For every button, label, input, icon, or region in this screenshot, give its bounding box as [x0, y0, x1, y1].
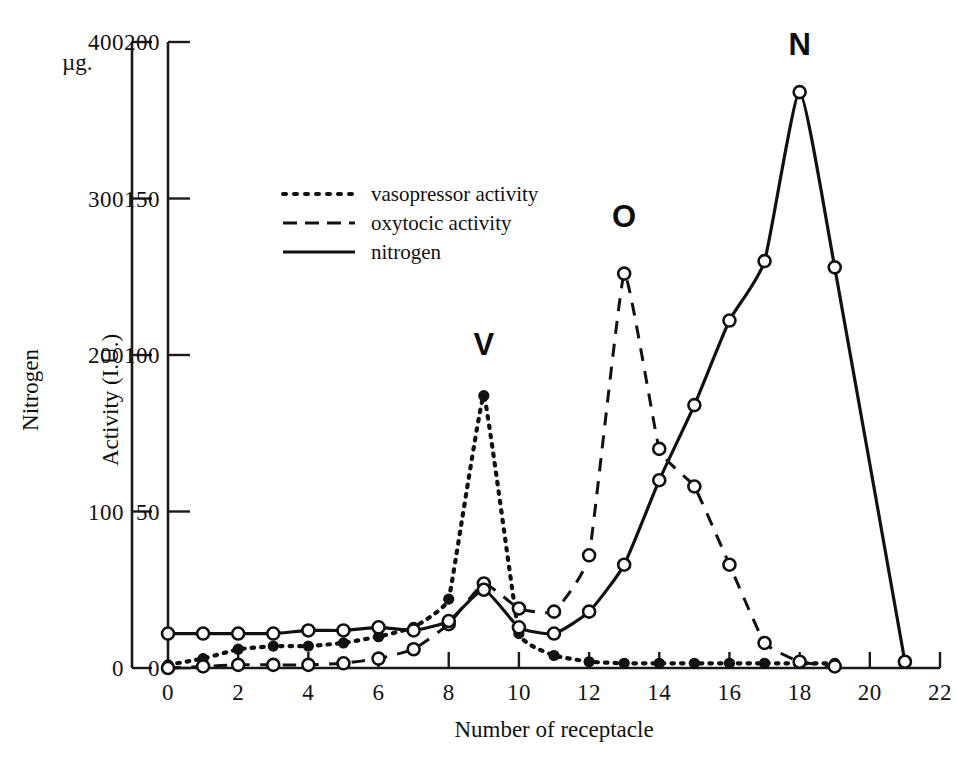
- data-point-marker: [619, 658, 629, 668]
- scientific-line-chart: 0100200300400 µg. Nitrogen 050100150200 …: [0, 0, 956, 762]
- data-point-marker: [618, 559, 630, 571]
- data-point-marker: [267, 659, 279, 671]
- x-axis-tick-label: 14: [647, 680, 671, 705]
- data-point-marker: [688, 399, 700, 411]
- data-point-marker: [723, 315, 735, 327]
- data-point-marker: [653, 474, 665, 486]
- x-axis-title: Number of receptacle: [454, 717, 653, 742]
- left-axis-tick-label: 0: [112, 656, 124, 681]
- peak-label-N: N: [788, 27, 810, 62]
- data-point-marker: [373, 621, 385, 633]
- x-axis-tick-label: 20: [858, 680, 882, 705]
- x-axis-tick-label: 0: [162, 680, 174, 705]
- activity-axis-tick-label: 150: [124, 187, 160, 212]
- activity-axis-tick-label: 200: [124, 30, 160, 55]
- series-line-solid: [168, 92, 905, 662]
- data-point-marker: [302, 659, 314, 671]
- legend-entry-dashed: oxytocic activity: [283, 211, 512, 235]
- data-point-marker: [443, 615, 455, 627]
- data-point-marker: [899, 656, 911, 668]
- data-point-marker: [548, 628, 560, 640]
- data-point-marker: [479, 391, 489, 401]
- left-axis-tick-label: 300: [88, 187, 124, 212]
- left-axis-unit-label: µg.: [62, 50, 93, 75]
- data-point-marker: [548, 606, 560, 618]
- data-point-marker: [268, 641, 278, 651]
- peak-label-O: O: [612, 199, 636, 234]
- data-point-marker: [513, 621, 525, 633]
- data-point-marker: [759, 255, 771, 267]
- data-point-marker: [478, 584, 490, 596]
- series-nitrogen: [162, 86, 911, 668]
- x-axis-tick-label: 22: [928, 680, 952, 705]
- data-point-marker: [338, 638, 348, 648]
- data-point-marker: [337, 624, 349, 636]
- data-point-marker: [584, 657, 594, 667]
- x-axis-tick-label: 12: [577, 680, 601, 705]
- x-axis-tick-label: 4: [302, 680, 314, 705]
- peak-label-V: V: [473, 327, 494, 362]
- legend-entry-solid: nitrogen: [283, 240, 441, 264]
- data-point-marker: [232, 628, 244, 640]
- data-point-marker: [302, 624, 314, 636]
- legend-label: nitrogen: [371, 240, 441, 264]
- series-vasopressor-activity: [163, 391, 840, 670]
- x-axis-tick-label: 2: [232, 680, 244, 705]
- data-point-marker: [688, 480, 700, 492]
- data-point-marker: [794, 86, 806, 98]
- figure-container: 0100200300400 µg. Nitrogen 050100150200 …: [0, 0, 956, 762]
- data-point-marker: [162, 662, 174, 674]
- data-point-marker: [162, 628, 174, 640]
- x-axis-tick-label: 18: [788, 680, 812, 705]
- activity-axis-tick-labels: 050100150200: [124, 30, 160, 681]
- activity-axis: 050100150200 Activity (I.U.): [98, 30, 190, 681]
- data-point-marker: [197, 660, 209, 672]
- activity-axis-tick-label: 50: [136, 500, 160, 525]
- data-point-marker: [829, 660, 841, 672]
- x-axis-tick-label: 16: [717, 680, 741, 705]
- data-point-marker: [408, 643, 420, 655]
- data-point-marker: [759, 637, 771, 649]
- data-point-marker: [549, 650, 559, 660]
- data-point-marker: [829, 261, 841, 273]
- data-point-marker: [232, 659, 244, 671]
- data-point-marker: [794, 656, 806, 668]
- data-point-marker: [444, 594, 454, 604]
- left-axis-title: Nitrogen: [18, 349, 43, 431]
- x-axis-tick-label: 10: [507, 680, 531, 705]
- chart-legend: vasopressor activityoxytocic activitynit…: [283, 182, 539, 264]
- data-point-marker: [689, 658, 699, 668]
- activity-axis-title: Activity (I.U.): [98, 334, 123, 466]
- data-point-marker: [337, 657, 349, 669]
- data-point-marker: [583, 606, 595, 618]
- activity-axis-tick-label: 0: [148, 656, 160, 681]
- data-point-marker: [373, 653, 385, 665]
- left-axis-tick-label: 100: [88, 500, 124, 525]
- legend-label: oxytocic activity: [371, 211, 512, 235]
- data-point-marker: [197, 628, 209, 640]
- left-axis-tick-label: 400: [88, 30, 124, 55]
- data-point-marker: [408, 624, 420, 636]
- data-point-marker: [653, 443, 665, 455]
- data-point-marker: [267, 628, 279, 640]
- activity-axis-ticks: [168, 42, 190, 668]
- x-axis-tick-labels: 0246810121416182022: [162, 680, 952, 705]
- data-point-marker: [583, 549, 595, 561]
- data-point-marker: [654, 658, 664, 668]
- series-line-dotted: [168, 396, 835, 665]
- data-point-marker: [723, 559, 735, 571]
- data-point-marker: [760, 658, 770, 668]
- legend-entry-dotted: vasopressor activity: [283, 182, 539, 206]
- series-oxytocic-activity: [162, 268, 841, 674]
- data-point-marker: [618, 268, 630, 280]
- data-point-marker: [513, 603, 525, 615]
- data-point-marker: [724, 658, 734, 668]
- activity-axis-tick-label: 100: [124, 343, 160, 368]
- data-point-marker: [303, 641, 313, 651]
- x-axis-tick-label: 6: [373, 680, 385, 705]
- data-series-layer: [162, 86, 911, 674]
- x-axis-tick-label: 8: [443, 680, 455, 705]
- data-point-marker: [233, 644, 243, 654]
- legend-label: vasopressor activity: [371, 182, 539, 206]
